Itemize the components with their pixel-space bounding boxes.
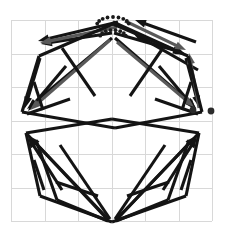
- arc-dot-marker: [118, 29, 122, 33]
- vertex-dot-marker: [190, 107, 197, 114]
- arc-dot-marker: [109, 28, 113, 32]
- arc-dot-marker: [97, 19, 101, 23]
- arc-dot-marker: [111, 15, 115, 19]
- figure-container: [0, 0, 225, 243]
- arc-dot-marker: [114, 28, 118, 32]
- vertex-dot-marker: [208, 108, 215, 115]
- arc-dot-marker: [127, 22, 131, 26]
- arc-dot-marker: [101, 17, 105, 21]
- arc-dot-marker: [100, 31, 104, 35]
- arc-dot-marker: [121, 17, 125, 21]
- vector-diagram-canvas: [0, 0, 225, 243]
- arc-dot-marker: [106, 16, 110, 20]
- arc-dot-marker: [117, 16, 121, 20]
- arc-dot-marker: [124, 34, 128, 38]
- arc-dot-marker: [104, 29, 108, 33]
